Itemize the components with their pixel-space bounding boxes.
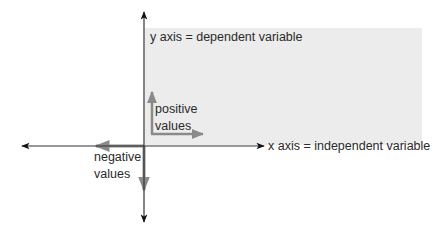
y-axis-label: y axis = dependent variable <box>150 31 303 44</box>
coordinate-axes-diagram: y axis = dependent variable x axis = ind… <box>0 0 440 234</box>
positive-label-line2: values <box>155 120 191 133</box>
positive-label-line1: positive <box>155 103 197 116</box>
negative-label-line1: negative <box>94 151 141 164</box>
negative-label-line2: values <box>94 168 130 181</box>
x-axis-label: x axis = independent variable <box>268 140 430 153</box>
